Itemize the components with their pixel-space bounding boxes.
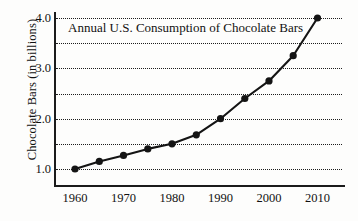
y-tick-label: 1.0 [21,163,51,176]
data-point [71,165,78,172]
x-tick-label: 2010 [295,191,341,206]
chart-screenshot: Chocolate Bars (in billions) 1.02.03.04.… [0,0,358,221]
x-tick-label: 1980 [149,191,195,206]
data-point [217,115,224,122]
y-tick-label: 3.0 [21,62,51,75]
series-markers [71,14,321,172]
x-tick-label: 1990 [198,191,244,206]
data-point [193,131,200,138]
x-tick-label: 2000 [246,191,292,206]
data-point [241,95,248,102]
x-tick-label: 1960 [52,191,98,206]
data-point [120,152,127,159]
data-point [144,145,151,152]
x-axis-tick-labels: 196019701980199020002010 [54,191,354,211]
data-point [96,158,103,165]
series-line [75,18,318,169]
y-tick-label: 2.0 [21,113,51,126]
data-point [168,140,175,147]
y-tick-label: 4.0 [21,12,51,25]
data-point [290,52,297,59]
data-point [314,14,321,21]
plot-area: Annual U.S. Consumption of Chocolate Bar… [54,12,345,187]
y-axis-tick-labels: 1.02.03.04.0 [18,0,51,221]
data-point [265,77,272,84]
x-tick-label: 1970 [101,191,147,206]
data-series-layer [54,12,345,187]
